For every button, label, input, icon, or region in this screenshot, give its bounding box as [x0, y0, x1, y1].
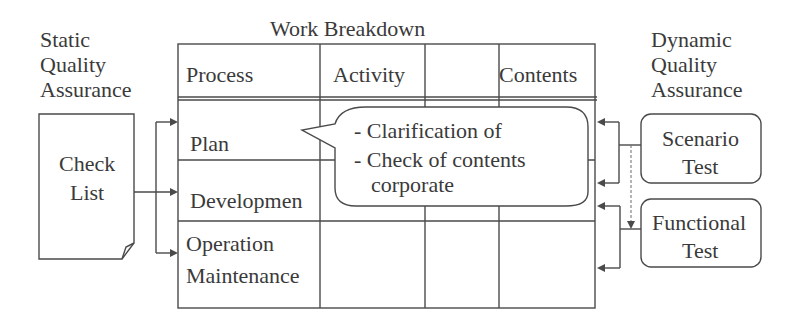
row-operation: Operation	[186, 231, 274, 256]
svg-text:Test: Test	[682, 154, 718, 179]
callout-line-3: corporate	[371, 172, 454, 197]
dynamic-quality-assurance-label: Dynamic Quality Assurance	[651, 27, 743, 102]
arrow-to-development-right-icon	[597, 179, 605, 187]
row-maintenance: Maintenance	[186, 263, 300, 288]
functional-test-box: Functional Test	[641, 199, 761, 267]
header-activity: Activity	[333, 62, 405, 87]
svg-text:Quality: Quality	[40, 52, 106, 77]
row-plan: Plan	[190, 131, 229, 156]
quality-assurance-diagram: Static Quality Assurance Work Breakdown …	[0, 0, 798, 325]
callout-line-1: - Clarification of	[354, 118, 503, 143]
static-quality-assurance-label: Static Quality Assurance	[40, 27, 132, 102]
svg-text:Dynamic: Dynamic	[651, 27, 732, 52]
svg-text:Functional: Functional	[652, 210, 746, 235]
svg-text:Assurance: Assurance	[651, 77, 743, 102]
callout-line-2: - Check of contents	[354, 147, 526, 172]
check-list-arrows	[134, 118, 178, 257]
arrow-to-operation-right-icon	[597, 264, 605, 272]
svg-text:Static: Static	[40, 27, 90, 52]
arrow-to-operation-icon	[170, 249, 178, 257]
arrow-to-development-lower-icon	[597, 202, 605, 210]
svg-text:Scenario: Scenario	[662, 126, 739, 151]
arrow-scenario-to-functional-icon	[627, 221, 635, 229]
dynamic-test-arrows	[597, 118, 641, 272]
svg-text:Quality: Quality	[651, 52, 717, 77]
svg-text:Assurance: Assurance	[40, 77, 132, 102]
arrow-to-plan-right-icon	[597, 118, 605, 126]
arrow-to-plan-icon	[170, 118, 178, 126]
svg-text:Check: Check	[59, 151, 115, 176]
header-process: Process	[186, 62, 253, 87]
row-development: Developmen	[190, 188, 302, 213]
svg-text:Test: Test	[682, 238, 718, 263]
svg-text:List: List	[70, 180, 104, 205]
header-contents: Contents	[499, 62, 577, 87]
arrow-to-development-icon	[170, 188, 178, 196]
work-breakdown-title: Work Breakdown	[270, 16, 425, 41]
check-list-document: Check List	[39, 114, 134, 259]
callout-bubble: - Clarification of - Check of contents c…	[302, 107, 588, 206]
scenario-test-box: Scenario Test	[641, 114, 761, 183]
